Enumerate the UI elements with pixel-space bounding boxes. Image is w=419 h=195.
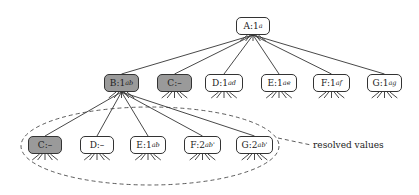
node-label: E:1: [136, 140, 151, 150]
node-subscript: af: [336, 79, 342, 87]
node-subscript: a: [259, 22, 263, 30]
node-f-level2: F:2ab': [184, 136, 221, 154]
node-c-level1: C:–: [157, 74, 192, 92]
node-subscript: ae: [283, 79, 291, 87]
node-g-level2: G:2ab': [236, 136, 273, 154]
tree-edges: [0, 0, 419, 195]
node-label: D:1: [212, 78, 228, 88]
node-label: G:2: [242, 140, 258, 150]
node-label: E:1: [267, 78, 282, 88]
node-subscript: ab': [205, 141, 215, 149]
node-label: F:2: [190, 140, 205, 150]
node-d-level1: D:1ad: [205, 74, 243, 92]
node-label: D:–: [90, 140, 105, 150]
node-subscript: ab: [152, 141, 160, 149]
node-subscript: ad: [228, 79, 236, 87]
resolved-values-label: resolved values: [313, 140, 384, 150]
node-a-root: A:1a: [236, 17, 270, 35]
node-label: B:1: [110, 78, 125, 88]
node-label: F:1: [321, 78, 336, 88]
node-subscript: ab: [125, 79, 133, 87]
node-d-level2: D:–: [80, 136, 114, 154]
node-label: C:–: [167, 78, 181, 88]
node-e-level1: E:1ae: [261, 74, 297, 92]
node-subscript: ab': [258, 141, 268, 149]
node-label: A:1: [243, 21, 258, 31]
node-label: C:–: [38, 140, 52, 150]
node-f-level1: F:1af: [313, 74, 350, 92]
node-label: G:1: [373, 78, 389, 88]
node-b-level1: B:1ab: [104, 74, 139, 92]
node-e-level2: E:1ab: [130, 136, 166, 154]
node-c-level2: C:–: [28, 136, 62, 154]
node-g-level1: G:1ag: [367, 74, 402, 92]
node-subscript: ag: [388, 79, 396, 87]
